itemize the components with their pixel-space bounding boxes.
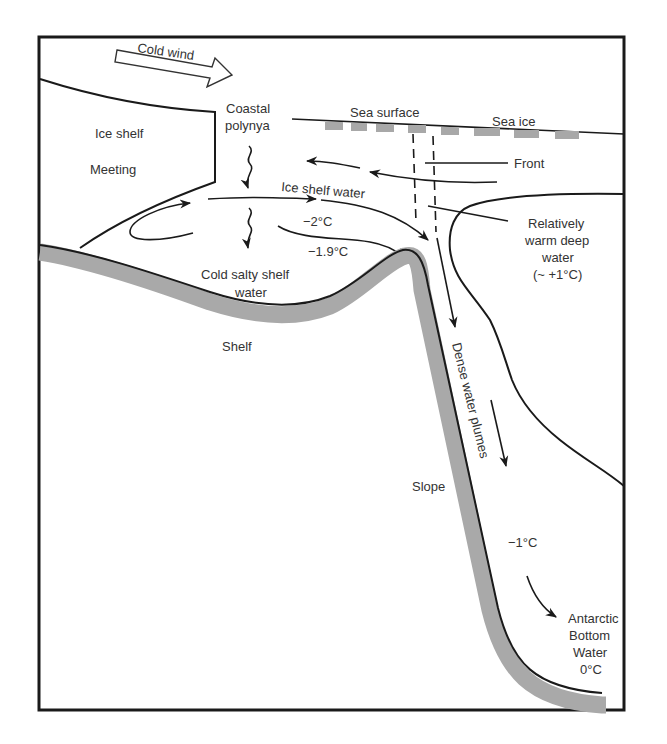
slope-label: Slope [412,479,445,494]
aabw-label-3: Water [573,645,608,660]
warm-deep-label-3: water [541,250,574,265]
polynya-sinking-arrow-2 [248,208,252,248]
front-label: Front [514,156,545,171]
aabw-label-4: 0°C [580,662,602,677]
temp-minus1-9-label: −1.9°C [308,244,348,259]
aabw-label-2: Bottom [569,628,610,643]
antarctic-bottom-water-diagram: Cold wind Ice shelf Meeting Coastal poly… [0,0,667,744]
cold-salty-shelf-water-label-2: water [234,285,267,300]
polynya-sinking-arrow-1 [247,146,252,188]
dense-plume-arrow-2 [491,400,506,466]
warm-deep-label-2: warm deep [524,233,589,248]
cold-salty-shelf-water-label-1: Cold salty shelf [201,267,290,282]
sea-surface-label: Sea surface [350,105,419,120]
temp-minus1-label: −1°C [508,535,537,550]
seabed-band [40,252,606,705]
ice-shelf-water-arrow-down [321,200,428,240]
front-dashed-line-1 [413,134,416,222]
meeting-label: Meeting [90,162,136,177]
aabw-label-1: Antarctic [568,611,619,626]
shelf-label: Shelf [222,339,252,354]
circulation-loop-arrow [130,203,193,240]
front-dashed-line-2 [433,136,436,232]
ice-shelf-water-arrow-in [208,198,316,200]
temp-minus2-label: −2°C [303,214,332,229]
dense-plume-arrow-1 [437,238,455,327]
warm-water-pointer [428,206,508,221]
ice-shelf-label: Ice shelf [95,126,144,141]
coastal-polynya-label-2: polynya [225,118,271,133]
aabw-arrow [527,576,556,617]
warm-deep-label-1: Relatively [528,216,585,231]
surface-flow-arrow-1 [307,161,360,168]
sea-ice-label: Sea ice [492,114,535,129]
warm-deep-label-4: (~ +1°C) [533,267,582,282]
coastal-polynya-label-1: Coastal [226,101,270,116]
